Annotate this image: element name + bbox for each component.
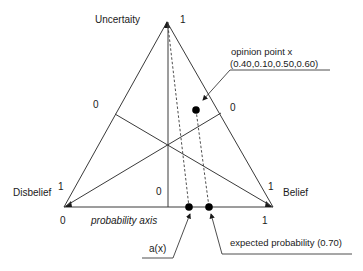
base-rate-label: a(x) xyxy=(149,243,166,254)
uncertainty-vertex-marker xyxy=(164,21,170,28)
right-side-zero: 0 xyxy=(230,102,236,113)
base-center-zero: 0 xyxy=(156,186,162,197)
expected-probability-label: expected probability (0.70) xyxy=(230,237,342,248)
opinion-point xyxy=(192,106,200,114)
uncertainty-label: Uncertaity xyxy=(95,14,140,25)
expected-probability-callout-line xyxy=(211,214,352,254)
opinion-point-values: (0.40,0.10,0.50,0.60) xyxy=(230,58,318,69)
opinion-callout-line xyxy=(203,70,330,100)
disbelief-label: Disbelief xyxy=(13,187,52,198)
disbelief-axis xyxy=(64,113,221,207)
director-line xyxy=(168,26,189,207)
left-side-zero: 0 xyxy=(93,99,99,110)
axis-end-label: 1 xyxy=(262,215,268,226)
uncertainty-value: 1 xyxy=(180,14,186,25)
opinion-point-label: opinion point x xyxy=(231,46,293,57)
opinion-triangle-diagram: Uncertaity 1 Disbelief 1 Belief 1 0 0 0 … xyxy=(0,0,363,271)
base-rate-point xyxy=(185,203,193,211)
expected-probability-point xyxy=(205,203,213,211)
disbelief-value: 1 xyxy=(58,181,64,192)
belief-axis xyxy=(115,114,273,207)
probability-axis-label: probability axis xyxy=(90,215,157,226)
axis-start-label: 0 xyxy=(60,215,66,226)
belief-label: Belief xyxy=(283,187,308,198)
belief-value: 1 xyxy=(268,181,274,192)
